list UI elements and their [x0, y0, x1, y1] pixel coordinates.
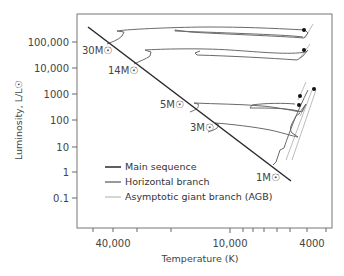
y-tick-label: 100,000: [28, 37, 69, 48]
hr-diagram-chart: 100,000 10,000 1000 100 10 1 0.1 40,000 …: [0, 0, 344, 276]
y-ticks: [72, 42, 77, 198]
legend: Main sequence Horizontal branch Asymptot…: [105, 161, 272, 202]
y-tick-label: 10,000: [34, 63, 69, 74]
x-ticks: [93, 228, 326, 233]
legend-label-agb: Asymptotic giant branch (AGB): [125, 191, 272, 202]
y-tick-label: 10: [56, 142, 69, 153]
x-tick-label: 4000: [299, 238, 324, 249]
y-tick-label: 1: [63, 167, 69, 178]
evolution-tracks: [107, 27, 308, 165]
mass-label-5: 5M☉: [160, 99, 184, 110]
mass-label-3: 3M☉: [190, 122, 214, 133]
y-axis-title: Luminosity, L/L☉: [13, 80, 24, 160]
mass-label-1: 1M☉: [256, 172, 280, 183]
mass-label-30: 30M☉: [82, 45, 112, 56]
y-tick-label: 1000: [44, 89, 69, 100]
x-tick-label: 10,000: [213, 238, 248, 249]
legend-label-horizontal-branch: Horizontal branch: [125, 176, 210, 187]
x-tick-label: 40,000: [96, 238, 131, 249]
y-tick-label: 0.1: [53, 193, 69, 204]
x-axis-title: Temperature (K): [161, 253, 239, 264]
endpoint-dots: [297, 28, 316, 107]
legend-label-main-sequence: Main sequence: [125, 161, 197, 172]
agb-tracks: [286, 24, 316, 160]
mass-label-14: 14M☉: [108, 65, 138, 76]
y-tick-label: 100: [50, 115, 69, 126]
